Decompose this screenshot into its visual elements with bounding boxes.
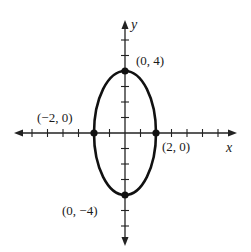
y-axis-top-arrow-icon: [122, 20, 129, 29]
label-top-point: (0, 4): [136, 53, 164, 68]
label-right-point: (2, 0): [162, 139, 190, 154]
x-axis-left-arrow-icon: [14, 130, 23, 137]
point-right: [152, 129, 159, 136]
x-axis-right-arrow-icon: [228, 130, 237, 137]
point-bottom: [121, 191, 128, 198]
label-bottom-point: (0, −4): [62, 203, 98, 218]
x-axis-label: x: [225, 140, 233, 155]
point-top: [121, 67, 128, 74]
y-axis-bottom-arrow-icon: [122, 237, 129, 246]
y-axis-label: y: [129, 17, 138, 32]
label-left-point: (−2, 0): [37, 110, 73, 125]
ellipse-plot: y x (0, 4) (−2, 0) (2, 0) (0, −4): [0, 0, 251, 252]
point-left: [90, 129, 97, 136]
